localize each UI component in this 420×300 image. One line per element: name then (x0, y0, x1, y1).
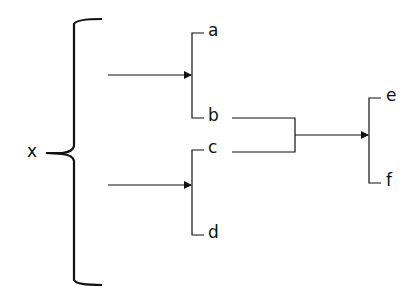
label-x: x (27, 143, 37, 160)
merge-bc (232, 118, 295, 152)
bracket-ab (192, 33, 204, 118)
bracket-cd (192, 150, 204, 235)
label-b: b (208, 107, 219, 124)
label-d: d (208, 224, 219, 241)
curly-brace (46, 19, 102, 285)
bracket-ef (369, 98, 381, 183)
label-f: f (386, 172, 392, 189)
label-c: c (208, 139, 217, 156)
label-e: e (386, 87, 396, 104)
label-a: a (208, 22, 218, 39)
